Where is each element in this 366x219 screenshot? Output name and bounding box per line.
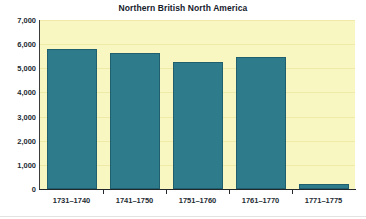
bar xyxy=(47,49,97,189)
x-axis-tick-mark xyxy=(103,190,104,194)
y-axis-tick-label: 6,000 xyxy=(2,40,36,49)
gridline xyxy=(40,20,355,21)
x-axis-line xyxy=(39,189,356,190)
x-axis-tick-mark xyxy=(292,190,293,194)
bar xyxy=(173,62,223,189)
y-axis-tick-label: 1,000 xyxy=(2,160,36,169)
y-axis-tick-label: 3,000 xyxy=(2,112,36,121)
bar-chart-figure: Northern British North America 7,0006,00… xyxy=(0,0,366,219)
x-axis-tick-mark xyxy=(166,190,167,194)
y-axis-tick-label: 4,000 xyxy=(2,88,36,97)
x-axis-category-label: 1731–1740 xyxy=(40,196,103,205)
y-axis-tick-label: 5,000 xyxy=(2,64,36,73)
x-axis-tick-mark xyxy=(229,190,230,194)
bar xyxy=(236,57,286,189)
y-axis-tick-label: 0 xyxy=(2,185,36,194)
bar xyxy=(110,53,160,189)
x-axis-category-labels: 1731–17401741–17501751–17601761–17701771… xyxy=(40,196,355,212)
y-axis-tick-labels: 7,0006,0005,0004,0003,0002,0001,0000 xyxy=(0,0,36,219)
y-axis-line xyxy=(39,20,40,190)
gridline xyxy=(40,44,355,45)
x-axis-category-label: 1771–1775 xyxy=(292,196,355,205)
x-axis-category-label: 1741–1750 xyxy=(103,196,166,205)
x-axis-category-label: 1751–1760 xyxy=(166,196,229,205)
x-axis-category-label: 1761–1770 xyxy=(229,196,292,205)
y-axis-tick-label: 2,000 xyxy=(2,136,36,145)
bottom-edge-divider xyxy=(0,216,366,217)
plot-area xyxy=(40,20,355,189)
chart-title: Northern British North America xyxy=(0,3,366,13)
y-axis-tick-label: 7,000 xyxy=(2,16,36,25)
